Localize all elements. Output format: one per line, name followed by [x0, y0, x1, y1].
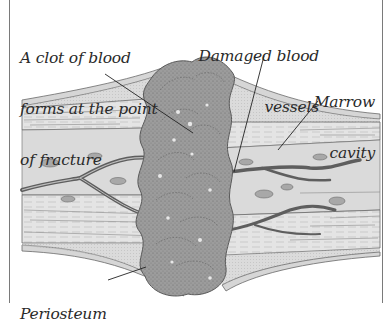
- label-blood-clot-line-1: A clot of blood: [20, 50, 158, 67]
- label-blood-clot-line-3: of fracture: [20, 152, 158, 169]
- label-blood-clot: A clot of blood forms at the point of fr…: [20, 16, 158, 203]
- label-periosteum-line-1: Periosteum: [20, 306, 107, 323]
- label-marrow-cavity-line-1: Marrow: [300, 94, 375, 111]
- label-blood-clot-line-2: forms at the point: [20, 101, 158, 118]
- label-marrow-cavity: Marrow cavity: [300, 60, 375, 196]
- label-marrow-cavity-line-2: cavity: [300, 145, 375, 162]
- label-periosteum: Periosteum: [20, 272, 107, 323]
